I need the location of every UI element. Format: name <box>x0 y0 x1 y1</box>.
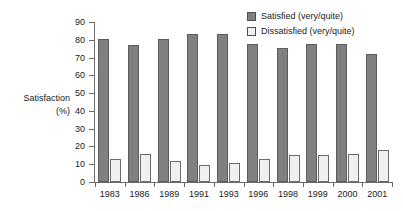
x-axis-tick <box>244 183 245 187</box>
y-axis-tick-label: 40 <box>63 107 85 116</box>
x-axis-tick <box>273 183 274 187</box>
bar-satisfied-1986 <box>128 45 139 182</box>
bar-dissatisfied-1986 <box>140 154 151 182</box>
y-axis-tick-label: 50 <box>63 89 85 98</box>
x-axis-tick-label-1991: 1991 <box>184 189 214 199</box>
x-axis-tick-label-1999: 1999 <box>303 189 333 199</box>
x-axis-tick-label-2001: 2001 <box>362 189 392 199</box>
y-axis-tick-label: 10 <box>63 160 85 169</box>
legend-label-satisfied: Satisfied (very/quite) <box>261 11 343 21</box>
x-axis-tick <box>125 183 126 187</box>
bar-satisfied-1999 <box>306 44 317 182</box>
y-axis-title-line1: Satisfaction <box>2 92 70 105</box>
bar-dissatisfied-1991 <box>199 165 210 182</box>
bar-satisfied-1996 <box>247 44 258 182</box>
bar-satisfied-1998 <box>277 48 288 182</box>
x-axis-tick <box>154 183 155 187</box>
x-axis-tick <box>362 183 363 187</box>
y-axis-tick-label: 70 <box>63 54 85 63</box>
bar-satisfied-2001 <box>366 54 377 182</box>
x-axis-tick-label-1993: 1993 <box>214 189 244 199</box>
y-axis-tick <box>89 129 94 130</box>
x-axis-tick-label-1998: 1998 <box>273 189 303 199</box>
bar-dissatisfied-1999 <box>318 155 329 182</box>
y-axis-tick-label: 80 <box>63 36 85 45</box>
y-axis-tick-label: 30 <box>63 125 85 134</box>
y-axis-tick <box>89 111 94 112</box>
x-axis-tick <box>214 183 215 187</box>
y-axis-tick <box>89 182 94 183</box>
y-axis-title-line2: (%) <box>2 105 70 118</box>
x-axis-tick-label-1986: 1986 <box>125 189 155 199</box>
y-axis-tick <box>89 164 94 165</box>
bar-satisfied-1989 <box>158 39 169 182</box>
legend-item-satisfied: Satisfied (very/quite) <box>247 10 355 22</box>
legend-swatch-satisfied-icon <box>247 12 256 21</box>
y-axis-tick-label: 20 <box>63 142 85 151</box>
bar-satisfied-1991 <box>187 34 198 182</box>
x-axis-tick <box>95 183 96 187</box>
y-axis-tick <box>89 40 94 41</box>
y-axis-tick-label: 90 <box>63 18 85 27</box>
x-axis-tick <box>184 183 185 187</box>
y-axis-tick <box>89 93 94 94</box>
bar-dissatisfied-2000 <box>348 154 359 182</box>
bar-dissatisfied-1998 <box>289 155 300 182</box>
x-axis-tick <box>303 183 304 187</box>
bar-satisfied-2000 <box>336 44 347 182</box>
y-axis-tick <box>89 75 94 76</box>
x-axis-tick-label-2000: 2000 <box>333 189 363 199</box>
bar-dissatisfied-1989 <box>170 161 181 182</box>
x-axis-tick-label-1996: 1996 <box>244 189 274 199</box>
y-axis-title: Satisfaction (%) <box>2 92 70 118</box>
bar-dissatisfied-2001 <box>378 150 389 182</box>
y-axis-tick <box>89 58 94 59</box>
bar-satisfied-1983 <box>98 39 109 182</box>
x-axis-tick <box>392 183 393 187</box>
y-axis-tick <box>89 146 94 147</box>
x-axis-tick-label-1989: 1989 <box>154 189 184 199</box>
x-axis-tick <box>333 183 334 187</box>
bar-dissatisfied-1993 <box>229 163 240 182</box>
y-axis-tick <box>89 22 94 23</box>
bar-satisfied-1993 <box>217 34 228 182</box>
x-axis-tick-label-1983: 1983 <box>95 189 125 199</box>
y-axis-tick-label: 0 <box>63 178 85 187</box>
y-axis-tick-label: 60 <box>63 71 85 80</box>
satisfaction-bar-chart: Satisfaction (%) Satisfied (very/quite) … <box>0 0 403 211</box>
plot-area <box>95 22 392 182</box>
bar-dissatisfied-1983 <box>110 159 121 182</box>
bar-dissatisfied-1996 <box>259 159 270 182</box>
